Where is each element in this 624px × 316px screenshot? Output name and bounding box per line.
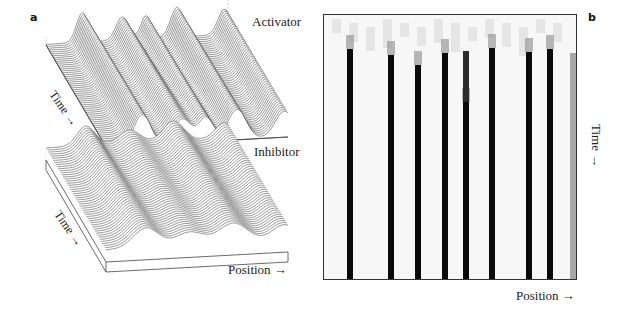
stripe-8 [547, 49, 553, 280]
stripe-onset-8 [546, 35, 554, 49]
edge-gray-strip [570, 53, 576, 280]
stripe-onset-4 [441, 39, 449, 53]
noise-smudge [553, 23, 562, 42]
inhibitor-label: Inhibitor [254, 144, 300, 160]
panel-b-position-axis-label: Position → [516, 288, 575, 304]
panel-a-position-axis-label: Position → [228, 262, 287, 278]
stripe-onset-3 [414, 51, 422, 65]
stripe-onset-2 [387, 41, 395, 55]
stripe-1 [347, 49, 353, 280]
stripe-onset-1 [346, 35, 354, 49]
stripe-onset-7 [525, 38, 533, 52]
noise-smudge [417, 27, 426, 46]
stripe-3 [415, 65, 421, 280]
kymograph-frame [323, 14, 577, 280]
stripe-2 [388, 55, 394, 280]
panel-b-letter: b [588, 11, 596, 24]
noise-smudge [468, 27, 477, 41]
stripe-7 [526, 52, 532, 280]
stripe-6 [489, 48, 495, 280]
stripe-4 [442, 53, 448, 280]
noise-smudge [366, 27, 375, 51]
activator-label: Activator [252, 14, 301, 30]
noise-smudge [400, 23, 409, 37]
stripe-onset-6 [488, 34, 496, 48]
noise-smudge [536, 19, 545, 33]
noise-smudge [502, 23, 511, 47]
panel-b-time-axis-label: Time → [588, 124, 604, 167]
noise-smudge [451, 23, 460, 52]
noise-smudge [332, 19, 341, 33]
stripe-5 [463, 102, 469, 280]
stripe-precursor-5 [463, 51, 469, 102]
